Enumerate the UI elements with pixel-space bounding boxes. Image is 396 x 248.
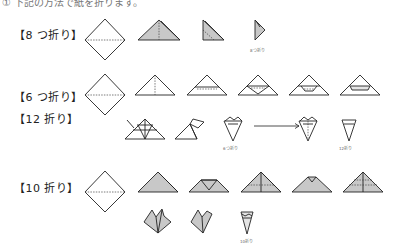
label-8-fold: 【8 つ折り】 [14,26,83,42]
triangle-step-12-5 [341,118,357,142]
flower-step-10-7 [190,208,214,234]
label-12-fold: 【12 折り】 [14,110,79,126]
label-6-fold: 【6 つ折り】 [14,88,83,104]
triangle-step-10-1 [137,171,179,193]
triangle-step-8-2 [202,19,226,41]
label-10-fold: 【10 折り】 [14,179,79,195]
header-text: ① 下記の方法で紙を折ります。 [2,0,143,9]
triangle-step-10-3 [240,171,282,193]
flower-step-10-6 [143,208,173,234]
triangle-step-6-4 [288,74,330,96]
triangle-step-8-3 [254,19,266,41]
caption-10-fold: 10折り [240,238,253,244]
triangle-step-10-2 [188,177,230,193]
triangle-step-6-3 [237,74,279,96]
square-diamond-8 [84,19,126,61]
caption-12-fold: 12折り [339,145,352,151]
caption-8-fold: 8つ折り [250,47,265,53]
triangle-step-12-2 [174,116,206,140]
triangle-step-10-4 [291,175,333,193]
triangle-step-12-1 [124,118,166,140]
triangle-step-12-3 [222,116,244,142]
arrow-right-icon [253,122,301,130]
flower-step-10-8 [240,210,254,236]
triangle-step-12-4 [297,116,319,142]
triangle-step-6-1 [134,74,176,96]
triangle-step-10-5 [342,171,384,193]
caption-6-fold-mid: 6つ折り [223,145,238,151]
triangle-step-6-2 [186,74,228,96]
triangle-step-8-1 [137,19,181,41]
square-diamond-10 [84,171,126,213]
square-diamond-6 [84,74,126,116]
triangle-step-6-5 [339,74,381,96]
